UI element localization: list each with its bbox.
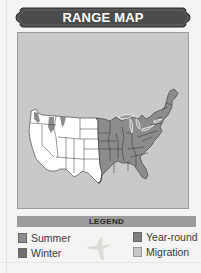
legend-item-year-round: Year-round (133, 231, 198, 243)
legend-item-winter: Winter (18, 247, 61, 259)
bird-silhouette-icon (84, 234, 116, 262)
legend-header: LEGEND (17, 216, 196, 227)
page-edge-rule (6, 0, 7, 273)
us-map-graphic (18, 33, 189, 209)
title-banner: RANGE MAP (15, 7, 191, 28)
legend-item-summer: Summer (18, 232, 71, 244)
winter-swatch (18, 248, 27, 258)
legend-title: LEGEND (89, 217, 124, 226)
legend-item-migration: Migration (133, 246, 189, 258)
legend-label-summer: Summer (31, 232, 71, 244)
year-round-swatch (133, 232, 142, 242)
legend-label-migration: Migration (146, 246, 189, 258)
summer-swatch (18, 233, 27, 243)
western-us (29, 109, 102, 183)
eastern-us-range (96, 89, 178, 183)
range-map (17, 32, 189, 209)
legend-label-year-round: Year-round (146, 231, 198, 243)
bottom-rule (0, 262, 201, 263)
migration-swatch (133, 247, 142, 257)
page-title: RANGE MAP (15, 7, 191, 28)
legend-label-winter: Winter (31, 247, 61, 259)
